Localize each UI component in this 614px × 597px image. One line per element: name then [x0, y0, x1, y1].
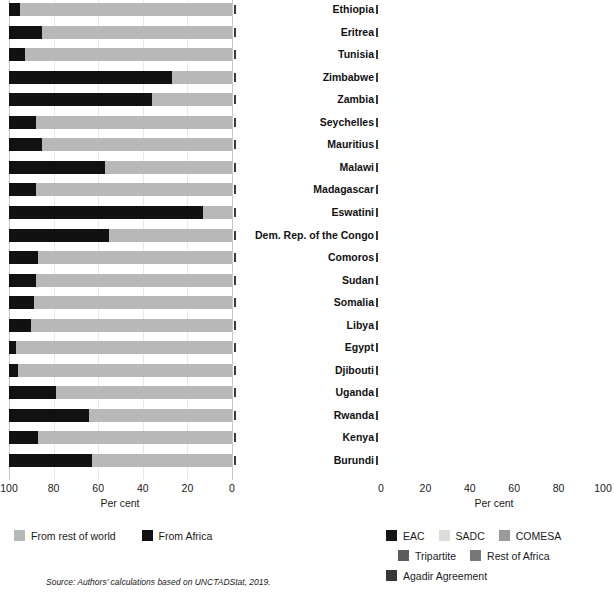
left-axis-tickmark: [234, 208, 236, 217]
left-axis-tickmark: [234, 28, 236, 37]
bar-segment: [89, 409, 232, 422]
right-legend: EACSADCCOMESATripartiteRest of AfricaAga…: [386, 527, 614, 587]
country-label: Madagascar: [313, 183, 374, 196]
country-label-column: EthiopiaEritreaTunisiaZimbabweZambiaSeyc…: [236, 0, 378, 482]
bar-row: [9, 296, 232, 309]
country-label: Dem. Rep. of the Congo: [255, 229, 374, 242]
legend-item[interactable]: SADC: [439, 530, 485, 542]
legend-row: TripartiteRest of Africa: [386, 547, 614, 564]
bar-segment: [9, 48, 25, 61]
bar-segment: [9, 251, 38, 264]
bar-segment: [9, 71, 172, 84]
bar-segment: [152, 93, 232, 106]
bar-segment: [18, 364, 232, 377]
axis-tick-label: 0: [229, 482, 235, 494]
axis-tick-label: 60: [508, 482, 520, 494]
bar-segment: [9, 3, 20, 16]
left-legend: From rest of worldFrom Africa: [14, 527, 254, 547]
axis-tick-label: 20: [420, 482, 432, 494]
stacked-bar: [9, 3, 232, 16]
legend-item[interactable]: Tripartite: [398, 550, 456, 562]
stacked-bar: [9, 116, 232, 129]
left-axis-tickmark: [234, 231, 236, 240]
legend-item[interactable]: From Africa: [142, 530, 213, 542]
bar-segment: [9, 274, 36, 287]
legend-swatch-icon: [398, 550, 409, 561]
legend-swatch-icon: [439, 530, 450, 541]
legend-label: Agadir Agreement: [403, 570, 487, 582]
stacked-bar: [9, 274, 232, 287]
bar-segment: [9, 229, 109, 242]
bar-row: [9, 341, 232, 354]
country-label: Zambia: [337, 93, 374, 106]
bar-segment: [34, 296, 232, 309]
axis-tick-label: 80: [48, 482, 60, 494]
left-axis-tickmark: [234, 321, 236, 330]
right-x-axis: 020406080100 Per cent: [374, 482, 614, 512]
left-bar-rows: [9, 0, 232, 480]
right-axis-title: Per cent: [374, 497, 614, 509]
country-label: Malawi: [340, 161, 374, 174]
bar-segment: [9, 386, 56, 399]
gridline-0: [232, 0, 233, 480]
bar-segment: [9, 364, 18, 377]
bar-row: [9, 93, 232, 106]
bar-row: [9, 71, 232, 84]
source-note: Source: Authors' calculations based on U…: [46, 577, 271, 587]
legend-swatch-icon: [470, 550, 481, 561]
left-axis-tickmark: [234, 73, 236, 82]
bar-segment: [9, 183, 36, 196]
legend-item[interactable]: COMESA: [499, 530, 562, 542]
left-axis-tickmark: [234, 5, 236, 14]
bar-segment: [109, 229, 232, 242]
legend-label: From Africa: [159, 530, 213, 542]
bar-segment: [9, 454, 92, 467]
stacked-bar: [9, 138, 232, 151]
bar-segment: [9, 161, 105, 174]
bar-row: [9, 138, 232, 151]
bar-row: [9, 48, 232, 61]
stacked-bar: [9, 71, 232, 84]
bar-segment: [38, 431, 232, 444]
legend-item[interactable]: Agadir Agreement: [386, 570, 487, 582]
bar-segment: [9, 431, 38, 444]
left-axis-tickmark: [234, 276, 236, 285]
left-plot-area: [9, 0, 232, 480]
stacked-bar: [9, 386, 232, 399]
bar-segment: [9, 409, 89, 422]
axis-tick-label: 40: [464, 482, 476, 494]
country-label: Kenya: [342, 431, 374, 444]
stacked-bar: [9, 409, 232, 422]
legend-label: Tripartite: [415, 550, 456, 562]
bar-segment: [92, 454, 232, 467]
legend-item[interactable]: EAC: [386, 530, 425, 542]
axis-tick-label: 100: [594, 482, 612, 494]
country-label: Egypt: [345, 341, 374, 354]
left-axis-tickmark: [234, 456, 236, 465]
country-label: Comoros: [328, 251, 374, 264]
legend-item[interactable]: Rest of Africa: [470, 550, 549, 562]
bar-row: [9, 274, 232, 287]
legend-label: Rest of Africa: [487, 550, 549, 562]
left-axis-tickmark: [234, 95, 236, 104]
stacked-bar: [9, 319, 232, 332]
left-axis-tickmark: [234, 163, 236, 172]
stacked-bar: [9, 296, 232, 309]
stacked-bar: [9, 229, 232, 242]
stacked-bar: [9, 251, 232, 264]
left-chart-panel: [0, 0, 240, 482]
bar-row: [9, 229, 232, 242]
bar-row: [9, 116, 232, 129]
legend-item[interactable]: From rest of world: [14, 530, 116, 542]
left-axis-tickmark: [234, 50, 236, 59]
stacked-bar: [9, 454, 232, 467]
left-axis-tickmark: [234, 185, 236, 194]
left-axis-tickmark: [234, 366, 236, 375]
country-label: Seychelles: [320, 116, 374, 129]
axis-tick-label: 20: [182, 482, 194, 494]
bar-segment: [42, 26, 232, 39]
left-x-axis: 100806040200 Per cent: [0, 482, 240, 512]
bar-segment: [9, 93, 152, 106]
right-chart-panel: [374, 0, 614, 482]
legend-label: From rest of world: [31, 530, 116, 542]
